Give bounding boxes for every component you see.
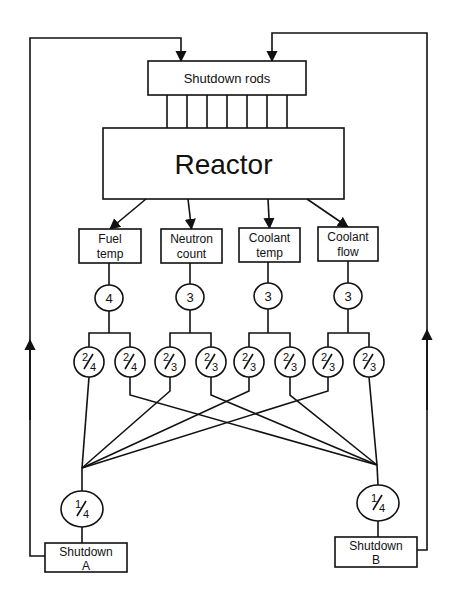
fraction-denominator: 3 [171,361,177,373]
shutdown-label-line1: Shutdown [59,545,112,559]
shutdown-system-A: 14ShutdownA [45,468,127,573]
shutdown-rods-group: Shutdown rods [148,61,306,128]
fraction-numerator: 2 [362,351,368,363]
junction-connector [377,465,378,485]
shutdown-rods-label: Shutdown rods [184,71,271,86]
fraction-denominator: 4 [131,361,137,373]
fraction-numerator: 1 [75,498,81,510]
sensor-fuel-temp: Fueltemp4 [79,199,146,347]
shutdown-label-line2: B [372,553,380,567]
feedback-lines [30,33,427,556]
vote-signal-line [369,377,377,465]
sensor-label-line1: Neutron [170,232,213,246]
sensor-neutron-count: Neutroncount3 [161,199,222,347]
voter-2-of-4: 24 [74,347,104,468]
fraction-denominator: 4 [379,502,385,514]
sensor-label-line1: Coolant [249,231,291,245]
sensor-arrow [268,199,270,228]
vote-signal-line [290,377,377,465]
reactor-label: Reactor [174,149,272,180]
fraction-denominator: 3 [370,361,376,373]
vote-signal-line [211,377,377,465]
vote-signal-line [130,377,377,465]
branch-bar [89,333,130,347]
fraction-numerator: 2 [82,351,88,363]
fraction-denominator: 3 [250,361,256,373]
sensors-group: Fueltemp4Neutroncount3Coolanttemp3Coolan… [79,199,378,347]
vote-signal-line [82,377,328,468]
fraction-numerator: 2 [283,351,289,363]
branch-bar [249,333,290,347]
channel-count-label: 4 [105,291,112,306]
sensor-label-line2: flow [337,245,359,259]
fraction-denominator: 4 [90,361,96,373]
fraction-denominator: 3 [291,361,297,373]
fraction-denominator: 3 [212,361,218,373]
sensor-label-line1: Coolant [327,230,369,244]
reactor-group: Reactor [103,128,344,199]
channel-count-label: 3 [186,290,193,305]
fraction-denominator: 4 [83,508,89,520]
final-voters-group: 14ShutdownA14ShutdownB [45,465,417,573]
sensor-arrow [188,199,192,229]
fraction-numerator: 2 [163,351,169,363]
sensor-arrow [307,199,348,227]
reactor-shutdown-diagram: Shutdown rods Reactor Fueltemp4Neutronco… [0,0,458,599]
vote-signal-line [82,377,89,468]
fraction-numerator: 2 [123,351,129,363]
voter-2-of-3: 23 [354,347,384,465]
sensor-label-line2: temp [256,246,283,260]
control-rods [167,95,287,128]
shutdown-label-line1: Shutdown [349,539,402,553]
sensor-label-line2: temp [97,247,124,261]
fraction-denominator: 3 [329,361,335,373]
fraction-numerator: 2 [204,351,210,363]
voters-group: 2424232323232323 [74,347,384,468]
channel-count-label: 3 [264,289,271,304]
fraction-numerator: 1 [371,492,377,504]
vote-signal-line [82,377,249,468]
branch-bar [328,333,369,347]
fraction-numerator: 2 [242,351,248,363]
fraction-numerator: 2 [321,351,327,363]
shutdown-label-line2: A [82,559,90,573]
sensor-coolant-flow: Coolantflow3 [307,199,378,347]
sensor-label-line1: Fuel [98,232,121,246]
channel-count-label: 3 [344,289,351,304]
sensor-coolant-temp: Coolanttemp3 [239,199,300,347]
shutdown-system-B: 14ShutdownB [335,465,417,567]
branch-bar [170,333,211,347]
sensor-arrow [110,199,146,229]
sensor-label-line2: count [177,247,207,261]
